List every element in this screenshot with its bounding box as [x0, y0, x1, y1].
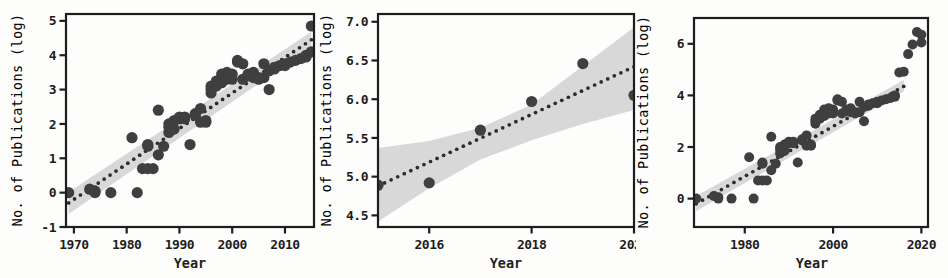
- panel-b-x-axis-title: Year: [490, 255, 523, 271]
- data-point: [771, 159, 781, 169]
- y-tick-label: 5.5: [346, 131, 368, 146]
- y-tick-label: 2: [677, 140, 684, 155]
- panel-c-x-axis-title: Year: [796, 255, 829, 271]
- data-point: [788, 137, 798, 147]
- panel-c-x-ticks: 198020002020: [730, 227, 937, 252]
- panel-b: 7.06.56.05.55.04.5 201620182020 Year No.…: [318, 0, 636, 278]
- data-point: [105, 187, 116, 198]
- panel-a-y-axis-title: No. of Publications (log): [9, 13, 25, 226]
- panel-a-confidence-band: [69, 32, 312, 214]
- data-point: [142, 139, 153, 150]
- panel-b-confidence-band: [378, 27, 634, 221]
- x-tick-label: 1980: [112, 237, 142, 252]
- data-point: [916, 30, 926, 40]
- data-point: [908, 40, 918, 50]
- data-point: [899, 67, 909, 77]
- panel-b-x-ticks: 201620182020: [415, 227, 636, 252]
- y-tick-label: 5.0: [346, 169, 369, 184]
- data-point: [727, 194, 737, 204]
- data-point: [802, 130, 812, 140]
- data-point: [766, 132, 776, 142]
- x-tick-label: 2000: [218, 237, 248, 252]
- data-point: [195, 103, 206, 114]
- data-point: [793, 157, 803, 167]
- data-point: [828, 105, 838, 115]
- x-tick-label: 1990: [165, 237, 195, 252]
- panel-c-y-axis-title: No. of Publications (log): [636, 15, 651, 228]
- y-tick-label: 2: [49, 117, 56, 132]
- data-point: [306, 20, 317, 31]
- panel-c-canvas: 6420 198020002020 Year No. of Publicatio…: [636, 0, 948, 278]
- data-point: [890, 90, 900, 100]
- data-point: [806, 139, 816, 149]
- data-point: [762, 176, 772, 186]
- panel-a-y-ticks: 543210-1: [41, 13, 66, 234]
- data-point: [577, 58, 588, 69]
- y-tick-label: 1: [49, 151, 57, 166]
- panel-b-canvas: 7.06.56.05.55.04.5 201620182020 Year No.…: [318, 0, 636, 278]
- data-point: [89, 187, 100, 198]
- data-point: [237, 58, 248, 69]
- data-point: [903, 49, 913, 59]
- data-point: [158, 141, 169, 152]
- panel-a-plot: 543210-1 19701980199020002010: [41, 13, 317, 252]
- data-point: [184, 139, 195, 150]
- data-point: [179, 111, 190, 122]
- y-tick-label: 6: [677, 36, 685, 51]
- data-point: [132, 187, 143, 198]
- data-point: [757, 157, 767, 167]
- data-point: [306, 46, 317, 57]
- y-tick-label: 0: [49, 185, 57, 200]
- data-point: [227, 69, 238, 80]
- panel-a-x-ticks: 19701980199020002010: [59, 227, 300, 252]
- x-tick-label: 2016: [415, 237, 445, 252]
- y-tick-label: 4.5: [346, 208, 368, 223]
- panel-c: 6420 198020002020 Year No. of Publicatio…: [636, 0, 948, 278]
- y-tick-label: -1: [41, 220, 56, 235]
- panel-c-data-points: [691, 27, 926, 204]
- panel-a: 543210-1 19701980199020002010 Year No. o…: [0, 0, 318, 278]
- panel-c-y-ticks: 6420: [677, 36, 694, 206]
- data-point: [713, 194, 723, 204]
- x-tick-label: 1980: [730, 237, 760, 252]
- x-tick-label: 2020: [619, 237, 636, 252]
- data-point: [200, 115, 211, 126]
- data-point: [424, 177, 435, 188]
- y-tick-label: 0: [677, 191, 685, 206]
- data-point: [475, 125, 486, 136]
- y-tick-label: 3: [49, 82, 56, 97]
- x-tick-label: 2000: [818, 237, 848, 252]
- data-point: [859, 116, 869, 126]
- publications-trend-figure: 543210-1 19701980199020002010 Year No. o…: [0, 0, 948, 278]
- data-point: [744, 152, 754, 162]
- panel-b-y-ticks: 7.06.56.05.55.04.5: [346, 14, 378, 223]
- data-point: [153, 105, 164, 116]
- data-point: [264, 84, 275, 95]
- x-tick-label: 2010: [270, 237, 300, 252]
- y-tick-label: 4: [677, 88, 685, 103]
- x-tick-label: 2018: [517, 237, 547, 252]
- data-point: [749, 194, 759, 204]
- panel-a-x-axis-title: Year: [174, 255, 207, 271]
- y-tick-label: 4: [49, 48, 57, 63]
- data-point: [126, 132, 137, 143]
- y-tick-label: 7.0: [346, 14, 369, 29]
- y-tick-label: 6.0: [346, 92, 369, 107]
- y-tick-label: 6.5: [346, 53, 368, 68]
- data-point: [526, 96, 537, 107]
- x-tick-label: 1970: [59, 237, 89, 252]
- panel-b-plot: 7.06.56.05.55.04.5 201620182020: [346, 14, 636, 252]
- panel-b-y-axis-title: No. of Publications (log): [318, 13, 334, 226]
- panel-a-canvas: 543210-1 19701980199020002010 Year No. o…: [0, 0, 318, 278]
- x-tick-label: 2020: [907, 237, 937, 252]
- data-point: [147, 163, 158, 174]
- panel-c-plot: 6420 198020002020: [677, 18, 937, 252]
- y-tick-label: 5: [49, 13, 56, 28]
